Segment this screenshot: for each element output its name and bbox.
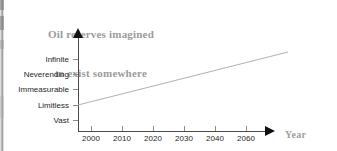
data-series-layer [0, 0, 337, 151]
plot-area: Infinite Neverending Immeasurable Limitl… [0, 0, 337, 151]
chart-screenshot: Oil reserves imagined to exist somewhere… [0, 0, 337, 151]
data-series-line [78, 52, 288, 105]
